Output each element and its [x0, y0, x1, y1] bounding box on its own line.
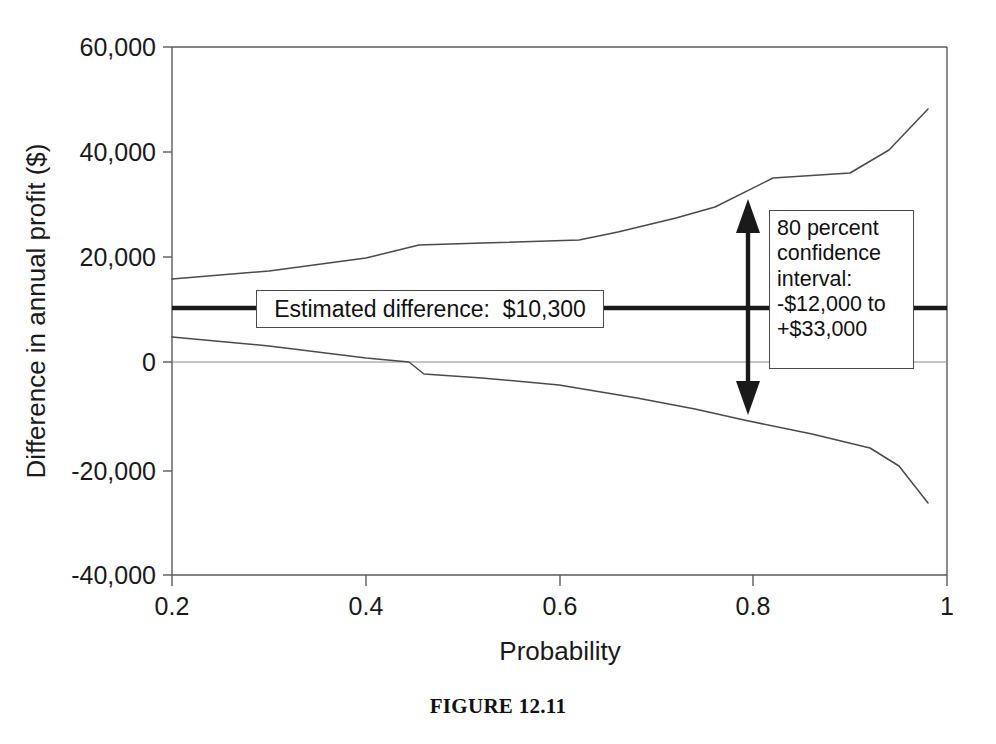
y-tick-label: -40,000	[71, 561, 156, 589]
x-tick-label: 1	[940, 592, 954, 620]
x-axis-title: Probability	[499, 636, 620, 666]
y-axis-title: Difference in annual profit ($)	[21, 144, 51, 479]
y-tick-label: 0	[142, 348, 156, 376]
ci-callout-line-1: 80 percent	[777, 216, 909, 241]
chart-plot-area: 60,000 40,000 20,000 0 -20,000 -40,000 0…	[0, 0, 996, 744]
x-axis-ticks	[172, 575, 947, 586]
x-tick-label: 0.2	[155, 592, 190, 620]
y-tick-label: 40,000	[80, 138, 156, 166]
arrow-head-up	[736, 199, 760, 233]
y-tick-label: 20,000	[80, 243, 156, 271]
x-tick-label: 0.8	[736, 592, 771, 620]
figure-container: 60,000 40,000 20,000 0 -20,000 -40,000 0…	[0, 0, 996, 744]
estimated-difference-callout: Estimated difference: $10,300	[256, 290, 604, 328]
ci-callout-line-4: -$12,000 to	[777, 292, 909, 317]
estimated-difference-text: Estimated difference: $10,300	[274, 296, 586, 323]
figure-caption: FIGURE 12.11	[0, 694, 996, 719]
y-tick-label: -20,000	[71, 457, 156, 485]
ci-callout-line-5: +$33,000	[777, 317, 909, 342]
ci-callout-line-3: interval:	[777, 267, 909, 292]
y-tick-label: 60,000	[80, 33, 156, 61]
confidence-interval-callout: 80 percent confidence interval: -$12,000…	[769, 210, 914, 369]
x-tick-label: 0.4	[349, 592, 384, 620]
y-axis-tick-labels: 60,000 40,000 20,000 0 -20,000 -40,000	[71, 33, 156, 589]
ci-callout-line-2: confidence	[777, 241, 909, 266]
x-axis-tick-labels: 0.2 0.4 0.6 0.8 1	[155, 592, 954, 620]
arrow-head-down	[736, 381, 760, 415]
y-axis-ticks	[163, 47, 172, 575]
x-tick-label: 0.6	[543, 592, 578, 620]
